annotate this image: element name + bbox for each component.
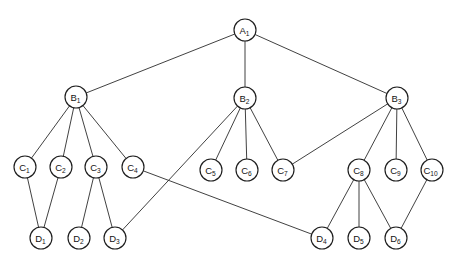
edge-b3-c7 — [292, 104, 387, 164]
node-circle-d5[interactable] — [348, 227, 370, 249]
edge-b2-c6 — [245, 109, 246, 159]
node-d1[interactable]: D1 — [30, 227, 52, 249]
edge-a1-b1 — [86, 34, 235, 93]
node-b1[interactable]: B1 — [65, 86, 87, 108]
edge-c1-d1 — [27, 178, 38, 228]
node-circle-d1[interactable] — [30, 227, 52, 249]
edge-layer — [27, 34, 427, 234]
node-c4[interactable]: C4 — [122, 156, 144, 178]
node-circle-d3[interactable] — [104, 227, 126, 249]
edge-b2-c7 — [250, 108, 278, 161]
node-c8[interactable]: C8 — [348, 159, 370, 181]
node-a1[interactable]: A1 — [234, 19, 256, 41]
node-d3[interactable]: D3 — [104, 227, 126, 249]
edge-b1-c1 — [31, 106, 69, 158]
node-c2[interactable]: C2 — [50, 156, 72, 178]
node-c6[interactable]: C6 — [236, 159, 258, 181]
edge-b1-c4 — [83, 106, 126, 159]
node-circle-c8[interactable] — [348, 159, 370, 181]
node-circle-b3[interactable] — [386, 87, 408, 109]
node-circle-c4[interactable] — [122, 156, 144, 178]
node-d6[interactable]: D6 — [385, 227, 407, 249]
edge-b1-c2 — [63, 108, 73, 156]
edge-c3-d3 — [99, 178, 112, 228]
edge-c8-d4 — [327, 180, 353, 229]
node-circle-d6[interactable] — [385, 227, 407, 249]
node-circle-b2[interactable] — [234, 87, 256, 109]
node-circle-c3[interactable] — [85, 156, 107, 178]
node-circle-c9[interactable] — [385, 159, 407, 181]
node-circle-c1[interactable] — [14, 156, 36, 178]
edge-a1-b3 — [255, 34, 387, 93]
edge-c3-d2 — [82, 178, 94, 228]
node-b3[interactable]: B3 — [386, 87, 408, 109]
node-circle-c5[interactable] — [200, 159, 222, 181]
edge-c8-d6 — [364, 180, 390, 229]
edge-b3-c10 — [402, 108, 427, 160]
node-b2[interactable]: B2 — [234, 87, 256, 109]
node-d4[interactable]: D4 — [311, 227, 333, 249]
node-circle-d2[interactable] — [68, 227, 90, 249]
node-c7[interactable]: C7 — [272, 159, 294, 181]
node-circle-d4[interactable] — [311, 227, 333, 249]
node-circle-a1[interactable] — [234, 19, 256, 41]
node-c5[interactable]: C5 — [200, 159, 222, 181]
node-circle-b1[interactable] — [65, 86, 87, 108]
node-layer: A1B1B2B3C1C2C3C4C5C6C7C8C9C10D1D2D3D4D5D… — [14, 19, 443, 249]
hierarchical-graph: A1B1B2B3C1C2C3C4C5C6C7C8C9C10D1D2D3D4D5D… — [0, 0, 458, 266]
edge-b3-c9 — [396, 109, 397, 159]
node-d5[interactable]: D5 — [348, 227, 370, 249]
node-c1[interactable]: C1 — [14, 156, 36, 178]
node-circle-c10[interactable] — [421, 159, 443, 181]
edge-c2-d1 — [44, 178, 58, 228]
node-circle-c7[interactable] — [272, 159, 294, 181]
diagram-canvas: A1B1B2B3C1C2C3C4C5C6C7C8C9C10D1D2D3D4D5D… — [0, 0, 458, 266]
edge-c10-d6 — [401, 180, 427, 229]
node-c10[interactable]: C10 — [421, 159, 443, 181]
node-d2[interactable]: D2 — [68, 227, 90, 249]
node-c9[interactable]: C9 — [385, 159, 407, 181]
node-circle-c2[interactable] — [50, 156, 72, 178]
node-circle-c6[interactable] — [236, 159, 258, 181]
node-c3[interactable]: C3 — [85, 156, 107, 178]
